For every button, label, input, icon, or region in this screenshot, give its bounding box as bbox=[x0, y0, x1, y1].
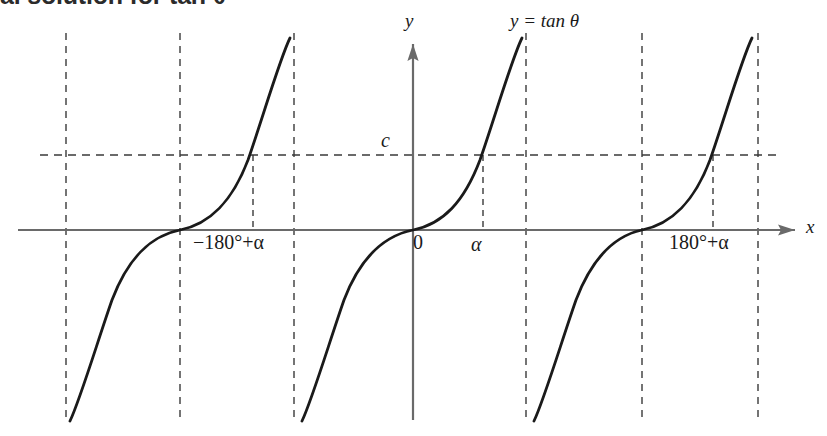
x-axis-label: x bbox=[806, 216, 814, 238]
zero-crossing-lines bbox=[180, 33, 642, 421]
figure-root: al solution for tan θ bbox=[0, 0, 827, 436]
right-solution-label: 180°+α bbox=[669, 231, 729, 254]
curve-equation-label: y = tan θ bbox=[510, 10, 579, 32]
y-axis-label: y bbox=[405, 10, 413, 32]
c-value-label: c bbox=[381, 129, 390, 152]
left-solution-label: −180°+α bbox=[193, 231, 264, 254]
origin-label: 0 bbox=[413, 231, 423, 254]
solution-droppers bbox=[253, 155, 713, 230]
tan-graph-plot bbox=[0, 0, 827, 436]
alpha-tick-label: α bbox=[471, 233, 482, 256]
